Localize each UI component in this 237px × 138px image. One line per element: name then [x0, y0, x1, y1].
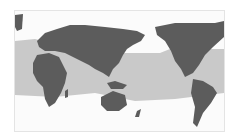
- new-zealand: [135, 109, 141, 117]
- world-map: [14, 10, 225, 132]
- map-canvas: [15, 11, 224, 131]
- greenland-left: [15, 14, 23, 31]
